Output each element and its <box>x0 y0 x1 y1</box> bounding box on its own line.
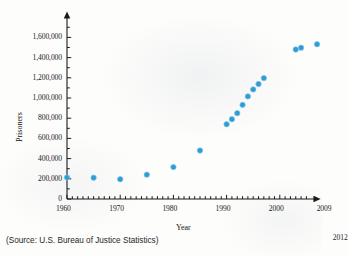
data-point <box>229 117 234 122</box>
y-tick-label: 600,000 <box>38 134 62 142</box>
source-note: (Source: U.S. Bureau of Justice Statisti… <box>6 237 158 245</box>
y-tick-label: 400,000 <box>38 155 62 163</box>
data-point <box>224 122 229 127</box>
y-tick-label: 1,000,000 <box>33 94 62 102</box>
y-axis-title: Prisoners <box>16 112 24 142</box>
data-point <box>240 102 245 107</box>
data-point <box>293 47 298 52</box>
data-point <box>64 175 69 180</box>
data-point <box>245 94 250 99</box>
x-axis-title: Year <box>176 224 191 232</box>
data-point <box>251 87 256 92</box>
data-point <box>314 42 319 47</box>
data-point <box>256 81 261 86</box>
x-tick-label: 1980 <box>162 205 177 213</box>
data-point <box>91 175 96 180</box>
x-tick-label: 1990 <box>216 205 231 213</box>
data-point <box>118 177 123 182</box>
data-point <box>197 148 202 153</box>
x-tick-label: 2009 <box>317 205 332 213</box>
data-point <box>261 75 266 80</box>
data-point <box>298 45 303 50</box>
y-tick-label: 1,600,000 <box>33 33 62 41</box>
data-point <box>144 172 149 177</box>
data-point <box>171 164 176 169</box>
x-tick-label: 1960 <box>56 205 71 213</box>
y-tick-label: 200,000 <box>38 175 62 183</box>
year-2012-callout-label: 2012 <box>333 234 348 242</box>
y-tick-label: 800,000 <box>38 114 62 122</box>
y-tick-label: 1,200,000 <box>33 74 62 82</box>
y-tick-label: 1,400,000 <box>33 54 62 62</box>
x-tick-label: 1970 <box>109 205 124 213</box>
x-tick-label: 2000 <box>269 205 284 213</box>
data-point <box>235 110 240 115</box>
y-tick-label: 0 <box>58 195 62 203</box>
